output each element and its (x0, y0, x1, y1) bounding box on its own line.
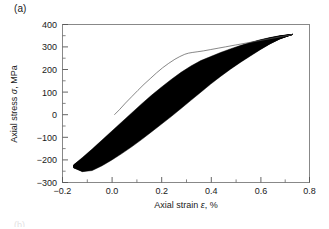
y-tick-label: 300 (42, 42, 57, 52)
y-tick-label: 100 (42, 88, 57, 98)
y-tick-label: −300 (37, 178, 57, 188)
x-tick-labels: −0.2 0.0 0.2 0.4 0.6 0.8 (54, 186, 316, 196)
y-tick-label: −200 (37, 155, 57, 165)
y-tick-labels: −300 −200 −100 0 100 200 300 400 (37, 20, 57, 188)
x-tick-label: 0.2 (155, 186, 168, 196)
stress-strain-chart: −0.2 0.0 0.2 0.4 0.6 0.8 −300 −200 −100 … (0, 0, 329, 229)
figure-panel-a: (a) (b) (0, 0, 329, 229)
y-axis-title-text: Axial stress (9, 96, 19, 143)
y-tick-label: 400 (42, 20, 57, 30)
y-tick-label: 200 (42, 65, 57, 75)
x-tick-label: 0.0 (106, 186, 119, 196)
y-tick-label: −100 (37, 133, 57, 143)
y-axis-title-units: , MPa (9, 65, 19, 89)
x-axis-title-units: , % (205, 200, 218, 210)
y-tick-label: 0 (52, 110, 57, 120)
x-axis-title: Axial strain ε, % (154, 200, 218, 210)
x-tick-label: 0.4 (205, 186, 218, 196)
x-tick-label: 0.6 (255, 186, 268, 196)
y-axis-title: Axial stress σ, MPa (9, 65, 19, 142)
x-tick-label: 0.8 (303, 186, 316, 196)
x-axis-title-text: Axial strain (154, 200, 198, 210)
